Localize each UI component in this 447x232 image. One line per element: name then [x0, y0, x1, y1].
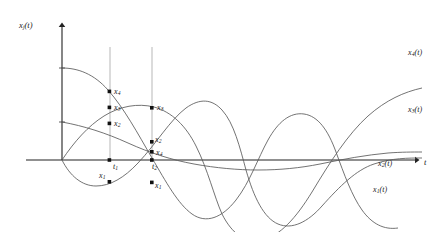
sample-label-x2-t1: x2	[114, 120, 120, 129]
curve-label-x3-suffix: (t)	[414, 105, 422, 114]
marker-x4-t2	[150, 150, 154, 154]
sample-label-x4-t2: x4	[156, 149, 162, 158]
sample-label-x3-t1: x3	[114, 104, 120, 113]
curve-label-x2-suffix: (t)	[384, 159, 392, 168]
y-axis-label-suffix: (t)	[24, 20, 32, 30]
axes-group	[26, 26, 416, 160]
x-axis-label: t	[424, 158, 426, 167]
curve-label-x1: x1(t)	[373, 186, 387, 195]
curve-label-x2: x2(t)	[378, 160, 392, 169]
sample-label-x4-t1-sub: 4	[118, 90, 121, 96]
marker-x1-t2	[150, 181, 154, 185]
curve-label-x3: x3(t)	[408, 106, 422, 115]
marker-x4-t1	[108, 90, 112, 94]
sample-label-x3-t1-sub: 3	[118, 106, 121, 112]
marker-x3-t2	[150, 106, 154, 110]
curve-label-x1-suffix: (t)	[379, 185, 387, 194]
marker-t1-axis	[108, 158, 112, 162]
sample-markers-t1	[108, 90, 112, 184]
sample-label-x2-t2-sub: 2	[159, 138, 162, 144]
sample-label-t2-sub: 2	[154, 165, 157, 171]
sample-label-x1-t2: x1	[155, 182, 161, 191]
marker-x2-t2	[150, 140, 154, 144]
curve-x4	[62, 68, 398, 228]
sample-label-x2-t2: x2	[155, 136, 161, 145]
sample-label-x1-t1: x1	[99, 172, 105, 181]
sample-label-t1: t1	[113, 163, 118, 172]
sample-label-x3-t2-sub: 3	[161, 106, 164, 112]
marker-x2-t1	[108, 122, 112, 126]
sample-label-x2-t1-sub: 2	[118, 122, 121, 128]
sample-label-x1-t1-sub: 1	[103, 174, 106, 180]
sample-label-x4-t2-sub: 4	[160, 151, 163, 157]
plot-canvas	[0, 0, 447, 232]
sample-label-t1-sub: 1	[115, 165, 118, 171]
sample-label-x1-t2-sub: 1	[159, 184, 162, 190]
sample-label-t2: t2	[152, 163, 157, 172]
sample-label-x4-t1: x4	[114, 88, 120, 97]
marker-x1-t1	[108, 180, 112, 184]
y-axis-label: xj(t)	[19, 21, 33, 31]
marker-x3-t1	[108, 106, 112, 110]
figure-container: xj(t) t x4(t) x3(t) x2(t) x1(t) x4 x3 x2…	[0, 0, 447, 232]
curve-label-x4: x4(t)	[408, 49, 422, 58]
curve-label-x4-suffix: (t)	[414, 48, 422, 57]
sample-label-x3-t2: x3	[157, 104, 163, 113]
